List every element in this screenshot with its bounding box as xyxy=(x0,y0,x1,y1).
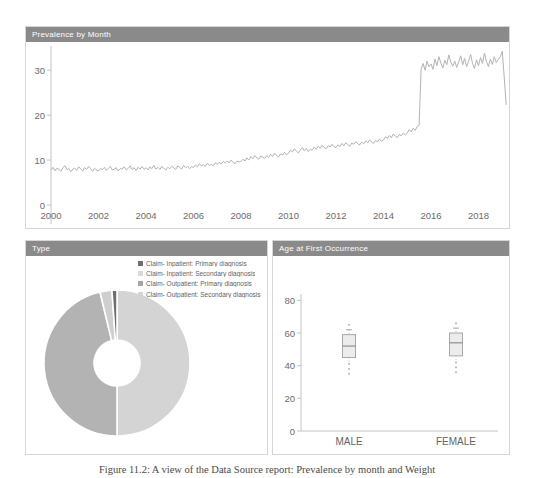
x-tick-label: 2012 xyxy=(325,210,346,221)
age-boxplot-chart[interactable]: 020406080MALEFEMALE xyxy=(273,256,509,456)
x-tick-label: 2014 xyxy=(373,210,394,221)
x-category-label: MALE xyxy=(335,436,363,447)
box-lower-outlier xyxy=(348,363,350,365)
box-iqr[interactable] xyxy=(450,333,463,356)
type-chart-legend: Claim- Inpatient: Primary diagnosisClaim… xyxy=(138,258,264,300)
legend-swatch-icon xyxy=(138,292,143,297)
x-tick-label: 2016 xyxy=(420,210,441,221)
y-tick-label: 0 xyxy=(40,200,45,211)
x-tick-label: 2018 xyxy=(468,210,489,221)
x-tick-label: 2010 xyxy=(278,210,299,221)
panel-title-age: Age at First Occurrence xyxy=(279,244,368,253)
box-upper-outlier xyxy=(348,324,350,326)
x-category-label: FEMALE xyxy=(436,436,476,447)
legend-swatch-icon xyxy=(138,261,143,266)
legend-swatch-icon xyxy=(138,281,143,286)
box-lower-outlier xyxy=(348,368,350,370)
panel-header-age: Age at First Occurrence xyxy=(273,241,509,256)
y-tick-label: 20 xyxy=(284,393,295,404)
legend-item: Claim- Outpatient: Secondary diagnosis xyxy=(138,289,264,299)
figure-caption: Figure 11.2: A view of the Data Source r… xyxy=(0,464,534,475)
x-tick-label: 2000 xyxy=(40,210,61,221)
legend-item: Claim- Inpatient: Primary diagnosis xyxy=(138,258,264,268)
prevalence-series-line xyxy=(51,51,506,172)
legend-label: Claim- Inpatient: Secondary diagnosis xyxy=(146,270,255,277)
prevalence-line-chart[interactable]: 0102030200020022004200620082010201220142… xyxy=(26,42,509,228)
box-upper-outlier xyxy=(455,322,457,324)
legend-item: Claim- Outpatient: Primary diagnosis xyxy=(138,279,264,289)
panel-prevalence-by-month: Prevalence by Month 01020302000200220042… xyxy=(25,26,510,229)
legend-label: Claim- Outpatient: Secondary diagnosis xyxy=(146,291,261,298)
y-tick-label: 10 xyxy=(34,155,45,166)
x-tick-label: 2006 xyxy=(183,210,204,221)
legend-label: Claim- Inpatient: Primary diagnosis xyxy=(146,260,247,267)
y-tick-label: 20 xyxy=(34,110,45,121)
x-tick-label: 2004 xyxy=(135,210,156,221)
x-tick-label: 2002 xyxy=(88,210,109,221)
y-tick-label: 30 xyxy=(34,65,45,76)
box-lower-outlier xyxy=(455,371,457,373)
donut-slice[interactable] xyxy=(117,290,190,436)
box-lower-outlier xyxy=(348,373,350,375)
panel-title-type: Type xyxy=(32,244,50,253)
panel-header-type: Type xyxy=(26,241,267,256)
legend-label: Claim- Outpatient: Primary diagnosis xyxy=(146,280,252,287)
y-tick-label: 80 xyxy=(284,295,295,306)
legend-item: Claim- Inpatient: Secondary diagnosis xyxy=(138,268,264,278)
panel-type: Type Claim- Inpatient: Primary diagnosis… xyxy=(25,240,268,455)
panel-header-prevalence: Prevalence by Month xyxy=(26,27,509,42)
y-tick-label: 40 xyxy=(284,360,295,371)
panel-title-prevalence: Prevalence by Month xyxy=(32,30,111,39)
data-source-report-page: Prevalence by Month 01020302000200220042… xyxy=(0,0,534,478)
box-lower-outlier xyxy=(455,361,457,363)
legend-swatch-icon xyxy=(138,271,143,276)
panel-age-at-first-occurrence: Age at First Occurrence 020406080MALEFEM… xyxy=(272,240,510,455)
y-tick-label: 60 xyxy=(284,328,295,339)
y-tick-label: 0 xyxy=(290,426,295,437)
box-lower-outlier xyxy=(455,366,457,368)
x-tick-label: 2008 xyxy=(230,210,251,221)
